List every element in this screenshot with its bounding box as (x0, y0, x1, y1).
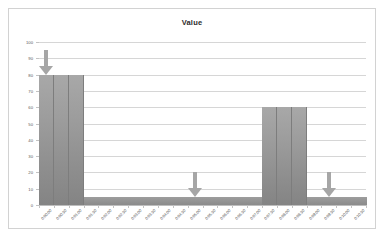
x-axis-tick-label: 0:06:00 (219, 208, 232, 221)
arrow-head (188, 188, 202, 197)
bar (262, 107, 277, 205)
y-axis-tick-label: 80 (9, 73, 33, 78)
x-axis-tick-label: 0:06:30 (233, 208, 246, 221)
bar (203, 197, 218, 205)
bar (128, 197, 143, 205)
y-axis-tick-label: 30 (9, 154, 33, 159)
x-axis-tick-label: 0:02:00 (100, 208, 113, 221)
x-axis-tick-label: 0:00:30 (55, 208, 68, 221)
x-axis-tick-label: 0:01:00 (70, 208, 83, 221)
bar (292, 107, 307, 205)
bar (143, 197, 158, 205)
x-axis-tick-label: 0:01:30 (85, 208, 98, 221)
x-axis-tick-label: 0:08:00 (278, 208, 291, 221)
bar (247, 197, 262, 205)
bar (98, 197, 113, 205)
y-axis-tick-label: 100 (9, 40, 33, 45)
arrow-shaft (44, 50, 48, 65)
bar (113, 197, 128, 205)
bar (336, 197, 351, 205)
x-axis-tick-mark (366, 205, 367, 208)
y-axis-tick-label: 0 (9, 203, 33, 208)
arrow-head (39, 66, 53, 75)
bar (351, 197, 366, 205)
y-axis-tick-label: 20 (9, 170, 33, 175)
bar (321, 197, 336, 205)
x-axis-tick-label: 0:07:00 (248, 208, 261, 221)
x-axis-labels: 0:00:000:00:300:01:000:01:300:02:000:02:… (39, 208, 366, 241)
bar (232, 197, 247, 205)
y-axis-tick-label: 70 (9, 89, 33, 94)
y-axis-tick-label: 90 (9, 56, 33, 61)
bar (69, 75, 84, 205)
x-axis-tick-label: 0:04:00 (159, 208, 172, 221)
bar (277, 107, 292, 205)
x-axis-tick-label: 0:10:00 (338, 208, 351, 221)
x-axis-tick-label: 0:09:30 (323, 208, 336, 221)
y-axis-tick-label: 60 (9, 105, 33, 110)
bar (307, 197, 322, 205)
down-arrow-icon (321, 172, 337, 196)
bar (158, 197, 173, 205)
y-axis-tick-label: 40 (9, 138, 33, 143)
chart-frame: Value 0102030405060708090100 0:00:000:00… (8, 8, 376, 229)
down-arrow-icon (187, 172, 203, 196)
x-axis-tick-label: 0:08:30 (293, 208, 306, 221)
bar (188, 197, 203, 205)
arrow-shaft (193, 172, 197, 187)
arrow-head (322, 188, 336, 197)
x-axis-tick-label: 0:00:00 (40, 208, 53, 221)
x-axis-tick-label: 0:05:00 (189, 208, 202, 221)
chart-title: Value (9, 18, 375, 27)
bar (217, 197, 232, 205)
x-axis-tick-label: 0:07:30 (263, 208, 276, 221)
bar (54, 75, 69, 205)
bar (173, 197, 188, 205)
x-axis-tick-label: 0:05:30 (204, 208, 217, 221)
down-arrow-icon (38, 50, 54, 74)
x-axis-tick-label: 0:04:30 (174, 208, 187, 221)
x-axis-tick-label: 0:09:00 (308, 208, 321, 221)
x-axis-tick-label: 0:03:30 (144, 208, 157, 221)
bar (39, 75, 54, 205)
arrow-shaft (327, 172, 331, 187)
x-axis-tick-label: 0:03:00 (129, 208, 142, 221)
bar (84, 197, 99, 205)
x-axis-tick-label: 0:10:30 (352, 208, 365, 221)
y-axis-tick-label: 50 (9, 122, 33, 127)
plot-area: 0102030405060708090100 (39, 42, 366, 205)
x-axis-tick-label: 0:02:30 (115, 208, 128, 221)
y-axis-tick-label: 10 (9, 187, 33, 192)
